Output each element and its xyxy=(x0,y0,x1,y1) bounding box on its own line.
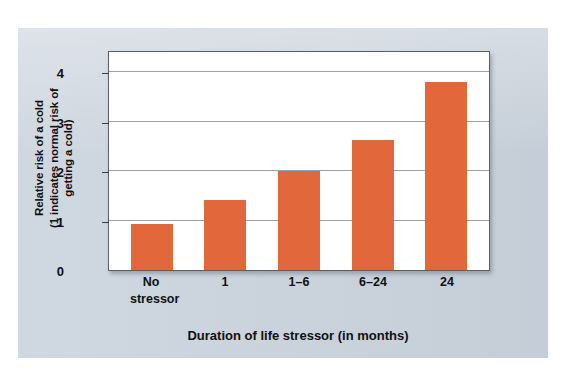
x-axis-label-line-1: 1–6 xyxy=(278,274,320,291)
y-tick-mark-1 xyxy=(102,222,109,223)
x-axis-label-2: 1–6 xyxy=(278,274,320,307)
y-tick-label-0: 0 xyxy=(42,264,64,279)
bar[interactable] xyxy=(131,224,173,270)
x-axis-label-line-1: 1 xyxy=(204,274,246,291)
y-tick-label-2: 2 xyxy=(42,165,64,180)
x-axis-label-line-1: No xyxy=(130,274,172,291)
plot-inner xyxy=(109,52,489,270)
x-axis-label-line-2: stressor xyxy=(130,291,172,308)
plot-area xyxy=(108,51,490,271)
y-tick-mark-4 xyxy=(102,73,109,74)
bar[interactable] xyxy=(204,200,246,270)
y-tick-label-4: 4 xyxy=(42,66,64,81)
x-axis-label-0: Nostressor xyxy=(130,274,172,307)
bar[interactable] xyxy=(425,82,467,270)
x-axis-category-labels: Nostressor11–66–2424 xyxy=(108,274,490,307)
bar[interactable] xyxy=(278,171,320,270)
bar[interactable] xyxy=(352,140,394,270)
x-axis-label-3: 6–24 xyxy=(352,274,394,307)
y-tick-label-3: 3 xyxy=(42,115,64,130)
y-tick-label-1: 1 xyxy=(42,214,64,229)
y-tick-mark-2 xyxy=(102,172,109,173)
figure-panel: Relative risk of a cold (1 indicates nor… xyxy=(18,28,548,358)
x-axis-title: Duration of life stressor (in months) xyxy=(88,328,508,343)
x-axis-label-4: 24 xyxy=(426,274,468,307)
x-axis-label-line-1: 6–24 xyxy=(352,274,394,291)
x-axis-label-line-1: 24 xyxy=(426,274,468,291)
bar-series xyxy=(109,52,489,270)
y-tick-mark-3 xyxy=(102,123,109,124)
x-axis-label-1: 1 xyxy=(204,274,246,307)
